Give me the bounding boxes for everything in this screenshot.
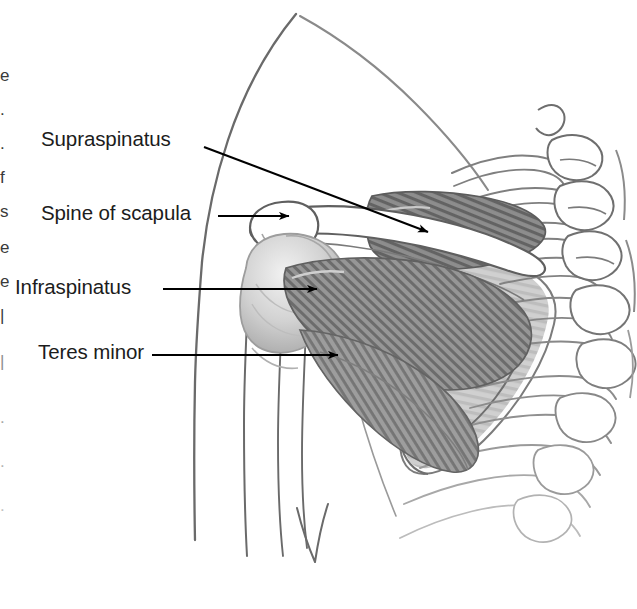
edge-fragment-4: f [0, 168, 14, 188]
label-infraspinatus: Infraspinatus [15, 277, 131, 298]
vertebra-t6 [556, 393, 616, 442]
edge-fragment-3: . [0, 134, 14, 154]
label-spine-of-scapula: Spine of scapula [41, 203, 191, 224]
vertebra-t3 [562, 231, 621, 280]
edge-fragment-5: s [0, 202, 14, 222]
vertebra-t4 [570, 285, 629, 334]
edge-fragment-12: . [0, 496, 14, 516]
label-teres-minor: Teres minor [38, 342, 144, 363]
vertebra-c7-spinous-process [536, 105, 565, 135]
edge-fragment-11: . [0, 452, 14, 472]
anatomy-figure-svg [0, 0, 637, 609]
vertebra-t5 [576, 339, 635, 388]
edge-fragment-10: . [0, 408, 14, 428]
vertebra-t1 [548, 135, 603, 180]
vertebra-t7 [534, 445, 594, 494]
edge-fragment-1: e [0, 66, 14, 86]
label-supraspinatus: Supraspinatus [41, 129, 171, 150]
edge-fragment-8: | [0, 306, 14, 326]
edge-fragment-9: | [0, 352, 14, 372]
vertebra-t2 [554, 181, 613, 230]
edge-fragment-6: e [0, 238, 14, 258]
edge-fragment-2: . [0, 100, 14, 120]
edge-fragment-7: e [0, 272, 14, 292]
anatomy-illustration [0, 0, 637, 609]
